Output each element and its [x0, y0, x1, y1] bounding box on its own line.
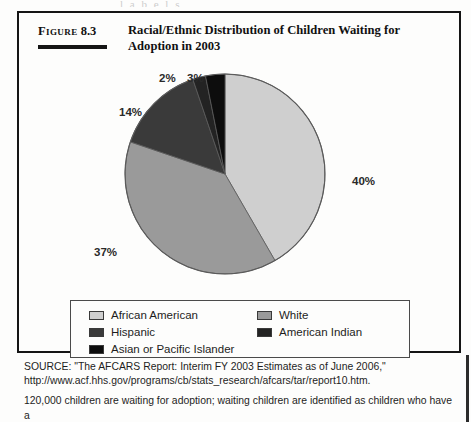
page-edge-rule	[466, 355, 469, 422]
pie-value-label-african-american: 40%	[352, 175, 375, 187]
legend-item-asian-or-pacific-islander: Asian or Pacific Islander	[89, 343, 234, 355]
figure-frame: Figure 8.3 Racial/Ethnic Distribution of…	[17, 11, 461, 353]
page-title: Racial/Ethnic Distribution of Children W…	[128, 23, 446, 54]
legend-label: African American	[111, 309, 198, 321]
figure-label-word: Figure	[38, 24, 78, 38]
figure-label-rule	[38, 45, 107, 49]
legend-swatch-icon	[257, 311, 272, 320]
source-block: SOURCE: "The AFCARS Report: Interim FY 2…	[24, 360, 456, 422]
pie-value-label-hispanic: 14%	[119, 106, 142, 118]
legend-swatch-icon	[89, 311, 104, 320]
source-citation: SOURCE: "The AFCARS Report: Interim FY 2…	[24, 360, 456, 388]
legend-item-hispanic: Hispanic	[89, 326, 155, 338]
legend-item-african-american: African American	[89, 309, 198, 321]
pie-value-label-white: 37%	[94, 246, 117, 258]
legend-label: American Indian	[279, 326, 362, 338]
legend-label: White	[279, 309, 308, 321]
legend-item-american-indian: American Indian	[257, 326, 362, 338]
legend-swatch-icon	[89, 328, 104, 337]
chart-legend: African American Hispanic Asian or Pacif…	[70, 300, 410, 358]
figure-label: Figure 8.3	[38, 24, 124, 39]
pie-value-label-asian-pacific-islander: 3%	[187, 72, 204, 84]
legend-label: Asian or Pacific Islander	[111, 343, 234, 355]
legend-swatch-icon	[89, 345, 104, 354]
figure-label-number: 8.3	[81, 24, 97, 38]
pie-chart	[122, 71, 328, 277]
pie-value-label-american-indian: 2%	[159, 72, 176, 84]
clipped-text-above: l a b e l s	[120, 0, 410, 7]
figure-note: 120,000 children are waiting for adoptio…	[24, 394, 456, 422]
legend-item-white: White	[257, 309, 308, 321]
legend-swatch-icon	[257, 328, 272, 337]
legend-label: Hispanic	[111, 326, 155, 338]
pie-chart-area: 40% 37% 14% 2% 3%	[19, 63, 463, 298]
